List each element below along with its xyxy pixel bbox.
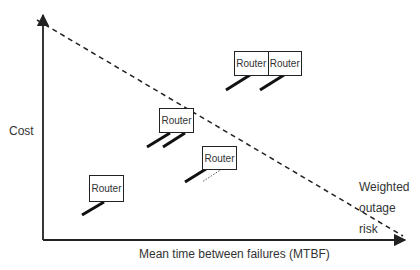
router-pair-link-b — [260, 75, 284, 90]
router-node-1: Router — [89, 175, 124, 202]
router-3-link — [185, 169, 206, 182]
router-pair-left: Router — [235, 52, 268, 75]
router-label: Router — [236, 58, 266, 69]
router-pair-link-a — [226, 75, 250, 90]
risk-label-line-3: risk — [359, 219, 409, 240]
router-1-link — [82, 202, 104, 215]
cost-vs-mtbf-diagram — [0, 0, 420, 270]
router-pair-node: Router Router — [234, 51, 302, 76]
router-node-3: Router — [202, 146, 237, 170]
router-label: Router — [91, 183, 121, 194]
y-axis-label: Cost — [9, 124, 34, 138]
router-label: Router — [204, 153, 234, 164]
risk-label-line-2: outage — [359, 198, 409, 219]
weighted-outage-risk-line — [37, 20, 403, 236]
weighted-outage-risk-label: Weighted outage risk — [359, 177, 409, 240]
router-label: Router — [161, 115, 191, 126]
router-label: Router — [270, 58, 300, 69]
router-pair-right: Router — [268, 52, 302, 75]
x-axis-label: Mean time between failures (MTBF) — [139, 247, 330, 261]
router-node-2: Router — [159, 108, 194, 133]
risk-label-line-1: Weighted — [359, 177, 409, 198]
